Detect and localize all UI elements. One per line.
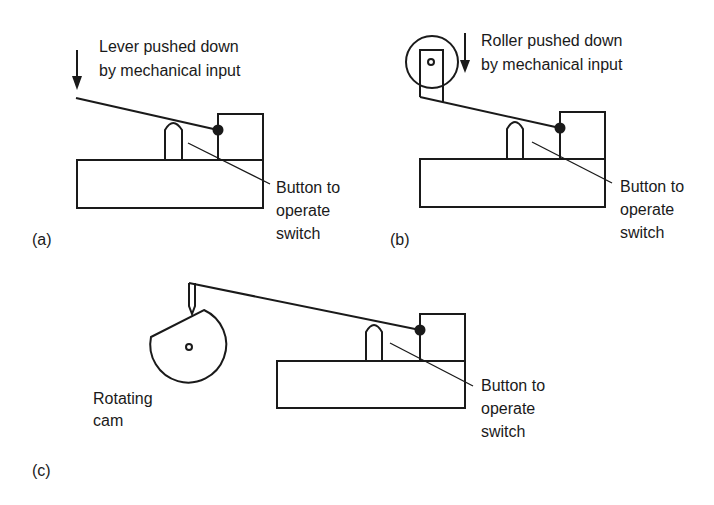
switch-tower — [218, 114, 263, 160]
callout-line-3: switch — [620, 224, 664, 241]
panel-tag: (b) — [390, 231, 410, 248]
cam-label-line-1: Rotating — [93, 390, 153, 407]
arrow-head-icon — [460, 60, 470, 73]
callout-line-1: Button to — [620, 178, 684, 195]
callout-leader — [532, 142, 612, 183]
pivot-icon — [415, 325, 426, 336]
callout-line-2: operate — [276, 202, 330, 219]
cam-follower — [189, 283, 195, 314]
roller-bracket — [420, 50, 443, 102]
switch-button — [366, 325, 382, 361]
caption-line-1: Roller pushed down — [481, 32, 622, 49]
panel-tag: (c) — [32, 462, 51, 479]
arrow-head-icon — [72, 76, 82, 90]
switch-body — [420, 159, 605, 207]
switch-tower — [560, 112, 605, 159]
caption-line-2: by mechanical input — [99, 62, 241, 79]
caption-line-2: by mechanical input — [481, 56, 623, 73]
pivot-icon — [555, 123, 566, 134]
roller-axle-icon — [428, 59, 434, 65]
caption-line-1: Lever pushed down — [99, 38, 239, 55]
pivot-icon — [213, 125, 224, 136]
cam-axle-icon — [186, 344, 192, 350]
panel-c: Button to operate switch Rotating cam (c… — [32, 283, 545, 479]
callout-line-3: switch — [276, 225, 320, 242]
callout-line-2: operate — [481, 400, 535, 417]
callout-line-3: switch — [481, 423, 525, 440]
roller-wheel — [406, 36, 458, 88]
panel-b: Roller pushed down by mechanical input B… — [390, 32, 684, 248]
lever-arm — [420, 97, 560, 128]
limit-switch-diagram: Lever pushed down by mechanical input Bu… — [0, 0, 714, 505]
switch-button — [165, 123, 182, 160]
callout-line-1: Button to — [276, 179, 340, 196]
lever-arm — [76, 98, 218, 130]
callout-line-2: operate — [620, 201, 674, 218]
panel-tag: (a) — [32, 231, 52, 248]
rotating-cam — [150, 310, 226, 383]
callout-leader — [188, 143, 270, 184]
switch-body — [277, 361, 465, 408]
panel-a: Lever pushed down by mechanical input Bu… — [32, 38, 340, 248]
switch-tower — [420, 314, 465, 361]
lever-arm — [189, 283, 420, 330]
callout-leader — [390, 343, 473, 386]
cam-label-line-2: cam — [93, 412, 123, 429]
callout-line-1: Button to — [481, 377, 545, 394]
switch-button — [507, 122, 523, 159]
